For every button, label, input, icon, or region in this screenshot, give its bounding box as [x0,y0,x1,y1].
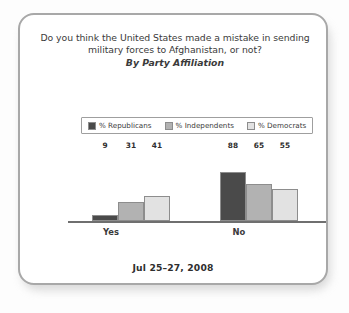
bar-value-no-republicans: 88 [220,141,246,150]
chart-screenshot: Do you think the United States made a mi… [0,0,349,313]
legend-item-republicans[interactable]: % Republicans [88,121,152,130]
chart-title-line-1: Do you think the United States made a mi… [34,32,316,44]
bar-rect-yes-democrats [144,196,170,221]
bar-value-yes-republicans: 9 [92,141,118,150]
legend-swatch-icon-democrats [247,122,255,130]
chart-baseline-axis [68,221,326,223]
bar-value-no-independents: 65 [246,141,272,150]
legend-label-independents: % Independents [176,121,234,130]
chart-subtitle: By Party Affiliation [34,56,316,70]
bar-no-independents[interactable]: 65 [246,151,272,221]
chart-plot-area: 9 31 41 88 [60,151,328,223]
bar-rect-no-democrats [272,189,298,221]
chart-legend: % Republicans % Independents % Democrats [81,117,313,134]
category-label-no: No [200,227,278,237]
bar-value-yes-democrats: 41 [144,141,170,150]
bar-yes-independents[interactable]: 31 [118,151,144,221]
bar-group-yes-bars: 9 31 41 [92,151,170,221]
bar-no-republicans[interactable]: 88 [220,151,246,221]
chart-title-line-2: military forces to Afghanistan, or not? [34,44,316,56]
category-label-yes: Yes [72,227,150,237]
chart-footer-date: Jul 25–27, 2008 [20,262,326,273]
bar-yes-republicans[interactable]: 9 [92,151,118,221]
legend-item-democrats[interactable]: % Democrats [247,121,306,130]
bar-value-no-democrats: 55 [272,141,298,150]
legend-swatch-icon-independents [165,122,173,130]
legend-label-republicans: % Republicans [99,121,152,130]
bar-rect-no-republicans [220,172,246,221]
chart-title-block: Do you think the United States made a mi… [34,32,316,70]
bar-value-yes-independents: 31 [118,141,144,150]
bar-rect-no-independents [246,184,272,221]
bar-no-democrats[interactable]: 55 [272,151,298,221]
poll-chart-card: Do you think the United States made a mi… [18,13,328,285]
bar-group-no-bars: 88 65 55 [220,151,298,221]
bar-rect-yes-independents [118,202,144,221]
legend-swatch-icon-republicans [88,122,96,130]
legend-label-democrats: % Democrats [258,121,306,130]
bar-yes-democrats[interactable]: 41 [144,151,170,221]
legend-item-independents[interactable]: % Independents [165,121,234,130]
